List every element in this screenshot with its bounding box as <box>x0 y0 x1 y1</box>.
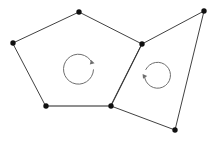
pentagon-vertex-right <box>139 41 144 46</box>
right-quadrilateral-outline <box>111 11 204 130</box>
quad-vertex-bottom-right <box>172 127 177 132</box>
quad-vertex-top-right <box>201 8 206 13</box>
right-rotation-arc <box>145 62 171 88</box>
diagram-root <box>0 0 216 146</box>
pentagon-vertex-left <box>10 40 15 45</box>
polygon-diagram-svg <box>0 0 216 146</box>
pentagon-vertex-top <box>76 9 81 14</box>
left-pentagon-outline <box>13 12 142 106</box>
left-rotation-arrow <box>64 54 95 84</box>
left-rotation-arc <box>64 54 94 84</box>
pentagon-vertex-bottom-right <box>108 103 113 108</box>
right-rotation-arrow <box>143 62 171 88</box>
pentagon-vertex-bottom-left <box>43 103 48 108</box>
